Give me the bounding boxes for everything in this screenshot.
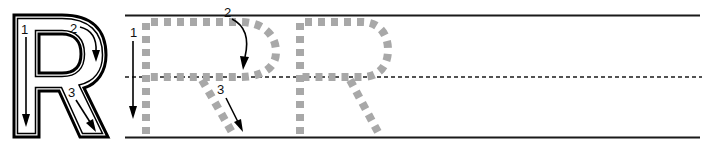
stroke-number-3: 3	[217, 82, 224, 97]
arrowhead-icon	[240, 56, 249, 70]
trace-letter-r-1: 1 2 3	[129, 5, 276, 134]
trace-letter-r-2	[300, 22, 388, 134]
model-letter-r-outline: 1 2 3	[14, 15, 108, 137]
stroke-number-2: 2	[70, 21, 77, 36]
stroke-3-arrow	[226, 98, 238, 122]
stroke-number-3: 3	[68, 85, 75, 100]
stroke-number-1: 1	[130, 25, 137, 40]
stroke-number-2: 2	[224, 5, 231, 20]
arrowhead-icon	[234, 119, 243, 132]
stroke-number-1: 1	[21, 22, 28, 37]
arrowhead-icon	[129, 106, 137, 119]
handwriting-worksheet: 1 2 3 1 2 3	[0, 0, 706, 155]
